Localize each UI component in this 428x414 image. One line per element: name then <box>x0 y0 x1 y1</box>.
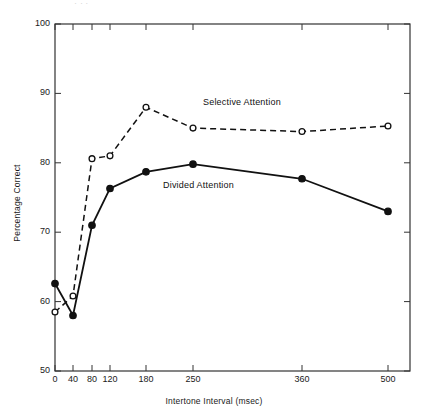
axis-frame <box>55 24 410 371</box>
data-point-marker <box>89 222 95 228</box>
ytick-label-60: 60 <box>24 296 50 306</box>
y-axis-ticks <box>55 24 410 371</box>
data-point-marker <box>299 129 305 135</box>
data-point-marker <box>70 312 76 318</box>
data-point-marker <box>107 185 113 191</box>
series-selective-attention <box>52 104 391 315</box>
xtick-label-180: 180 <box>126 374 166 384</box>
data-point-marker <box>190 161 196 167</box>
xtick-label-250: 250 <box>173 374 213 384</box>
series-line <box>55 107 388 312</box>
data-point-marker <box>52 309 58 315</box>
ytick-label-80: 80 <box>24 157 50 167</box>
x-axis-title: Intertone Interval (msec) <box>0 396 428 406</box>
data-point-marker <box>52 280 58 286</box>
series-label-divided-attention: Divided Attention <box>163 180 234 190</box>
ytick-label-70: 70 <box>24 226 50 236</box>
data-point-marker <box>143 104 149 110</box>
data-point-marker <box>143 169 149 175</box>
xtick-label-360: 360 <box>282 374 322 384</box>
xtick-label-500: 500 <box>368 374 408 384</box>
figure-container: ', ,', <box>0 0 428 414</box>
data-point-marker <box>89 156 95 162</box>
data-point-marker <box>190 125 196 131</box>
data-point-marker <box>70 293 76 299</box>
chart-plot-area <box>0 0 428 414</box>
ytick-label-100: 100 <box>24 18 50 28</box>
data-series-layer <box>52 104 391 318</box>
series-label-selective-attention: Selective Attention <box>203 97 281 107</box>
data-point-marker <box>385 208 391 214</box>
ytick-label-90: 90 <box>24 87 50 97</box>
data-point-marker <box>385 123 391 129</box>
data-point-marker <box>299 176 305 182</box>
y-axis-title: Percentage Correct <box>12 143 22 263</box>
data-point-marker <box>107 153 113 159</box>
xtick-label-120: 120 <box>90 374 130 384</box>
